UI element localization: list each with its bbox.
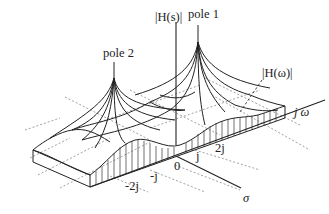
diagram-canvas: |H(s)| pole 1 pole 2 |H(ω)| j ω σ 0 -2j … [0,0,329,214]
pole-2-peak [50,62,185,148]
tick-minus-j: -j [150,169,158,183]
hatch-lines [96,109,276,185]
origin-label: 0 [174,159,180,173]
grid-lines [25,78,310,192]
base-slab [33,106,285,187]
hw-pointer [240,80,262,112]
pole-surface-diagram: |H(s)| pole 1 pole 2 |H(ω)| j ω σ 0 -2j … [0,0,329,214]
pole-1-label: pole 1 [188,7,219,21]
hs-label: |H(s)| [155,10,182,24]
jw-cross-section [90,106,285,185]
tick-j: j [195,149,199,163]
jw-axis [90,100,325,187]
jw-axis-label: j ω [292,105,310,119]
pole-2-label: pole 2 [103,46,134,60]
tick-minus-2j: -2j [125,179,139,193]
pole-1-peak [135,25,270,125]
hw-label: |H(ω)| [262,66,293,80]
sigma-axis-label: σ [243,191,250,205]
tick-2j: 2j [215,141,225,155]
